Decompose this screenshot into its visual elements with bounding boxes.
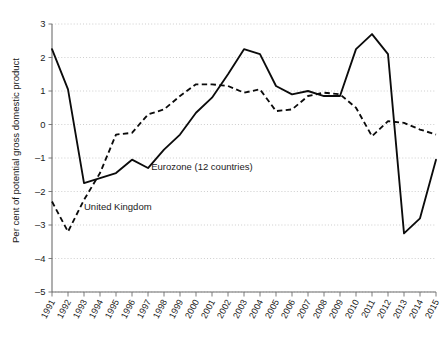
chart-plot-area: 3210–1–2–3–4–5 1991199219931994199519961… — [0, 0, 443, 339]
x-tick-label: 2015 — [423, 298, 441, 320]
y-tick-label: –1 — [35, 152, 45, 163]
y-tick-label: 3 — [40, 18, 45, 29]
y-axis-label-container: Per cent of potential gross domestic pro… — [2, 0, 28, 300]
x-tick-label: 2002 — [215, 298, 233, 320]
x-tick-label: 2012 — [375, 298, 393, 320]
y-tick-label: 0 — [40, 119, 45, 130]
x-tick-label: 1997 — [135, 298, 153, 320]
x-tick-label: 2008 — [311, 298, 329, 320]
gridlines-group — [52, 24, 436, 292]
x-tick-label: 2007 — [295, 298, 313, 320]
y-tick-label: –3 — [35, 219, 45, 230]
x-tick-label: 1991 — [39, 298, 57, 320]
y-tick-label: –2 — [35, 186, 45, 197]
x-axis-ticks-group: 1991199219931994199519961997199819992000… — [39, 292, 441, 320]
x-tick-label: 2009 — [327, 298, 345, 320]
y-axis-ticks-group: 3210–1–2–3–4–5 — [35, 18, 52, 297]
x-tick-label: 1994 — [87, 298, 105, 320]
series-annotation-label: Eurozone (12 countries) — [151, 161, 252, 172]
x-tick-label: 1998 — [151, 298, 169, 320]
x-tick-label: 1999 — [167, 298, 185, 320]
y-axis-label: Per cent of potential gross domestic pro… — [10, 58, 21, 243]
x-tick-label: 2013 — [391, 298, 409, 320]
x-tick-label: 1996 — [119, 298, 137, 320]
x-tick-label: 2001 — [199, 298, 217, 320]
series-annotations-group: Eurozone (12 countries)United Kingdom — [84, 161, 253, 212]
gdp-output-gap-chart: Per cent of potential gross domestic pro… — [0, 0, 443, 339]
x-tick-label: 2014 — [407, 298, 425, 320]
x-tick-label: 2003 — [231, 298, 249, 320]
y-tick-label: –5 — [35, 286, 45, 297]
x-tick-label: 2004 — [247, 298, 265, 320]
x-tick-label: 2006 — [279, 298, 297, 320]
x-tick-label: 1992 — [55, 298, 73, 320]
x-tick-label: 2005 — [263, 298, 281, 320]
y-tick-label: –4 — [35, 253, 45, 264]
x-tick-label: 2010 — [343, 298, 361, 320]
y-tick-label: 1 — [40, 85, 45, 96]
y-tick-label: 2 — [40, 52, 45, 63]
series-annotation-label: United Kingdom — [84, 201, 152, 212]
x-tick-label: 1993 — [71, 298, 89, 320]
x-tick-label: 2000 — [183, 298, 201, 320]
x-tick-label: 1995 — [103, 298, 121, 320]
